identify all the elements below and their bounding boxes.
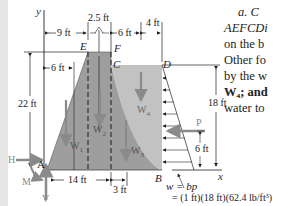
weight-w4-label: W4 (137, 104, 150, 118)
point-e-label: E (80, 40, 87, 52)
weight-w2-label: W2 (93, 124, 106, 138)
side-text-line: water to (224, 100, 282, 116)
dim-4ft: 4 ft (146, 17, 160, 28)
x-axis-label: x (218, 170, 223, 182)
weight-w1-label: W1 (70, 140, 83, 154)
force-h-label: H (8, 154, 15, 165)
dim-6ft-p: 6 ft (195, 143, 209, 154)
side-text-line: Other fo (224, 52, 282, 68)
side-text-line: by the w (224, 68, 282, 84)
load-equation-line2: = (1 ft)(18 ft)(62.4 lb/ft³) (172, 192, 272, 203)
y-axis-label: y (36, 5, 41, 17)
point-c-label: C (113, 58, 120, 70)
force-p-label: P (196, 117, 202, 128)
load-equation-line1: w = bp (166, 180, 197, 192)
weight-w3-label: W3 (131, 145, 144, 159)
side-text-line: on the b (224, 36, 282, 52)
point-d-label: D (163, 58, 171, 70)
point-a-label: A (37, 158, 45, 170)
point-b-label: B (155, 172, 162, 184)
dim-6ft-inner: 6 ft (51, 62, 65, 73)
side-text-block: a. C AEFCDi on the b Other fo by the w W… (224, 4, 282, 116)
side-text-line: a. C (224, 4, 282, 20)
moment-m-label: M (22, 176, 31, 187)
side-text-line: W₄; and (224, 84, 282, 100)
dim-14ft: 14 ft (68, 174, 87, 185)
side-text-line: AEFCDi (224, 20, 282, 36)
dim-6ft-top: 6 ft (118, 27, 132, 38)
dim-2-5ft: 2.5 ft (88, 12, 109, 23)
dim-3ft: 3 ft (113, 184, 127, 195)
dim-9ft: 9 ft (57, 27, 71, 38)
force-v-label: V (42, 193, 49, 204)
point-f-label: F (114, 42, 121, 54)
dim-22ft: 22 ft (18, 98, 37, 109)
